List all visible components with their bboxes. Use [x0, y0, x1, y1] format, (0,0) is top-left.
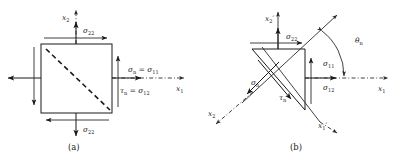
x1-prime-axis-label-b: x1′ [318, 122, 327, 132]
sigma12-label-b: σ12 [323, 84, 335, 94]
x2-axis-label-b: x2 [208, 110, 215, 120]
sigma-n-equation-label-a: σn = σ11 [128, 66, 159, 76]
diagonal-cut-plane [46, 49, 110, 110]
theta-n-label: θn [355, 37, 363, 47]
figure-vector-layer [0, 0, 396, 161]
panel-b-caption: (b) [290, 142, 302, 152]
sigma22-top-label-a: σ22 [83, 27, 95, 37]
x2-axis-label-a: x2 [62, 14, 69, 24]
x2-prime-axis-label-b: x2′ [265, 15, 274, 25]
stress-transformation-figure: x2 σ22 σ22 σn = σ11 τn = σ12 x1 (a) x2′ … [0, 0, 396, 161]
x1-axis-label-b: x1 [378, 85, 385, 95]
tau-n-equation-label-a: τn = σ12 [120, 87, 150, 97]
tau-n-label-b: τn [279, 94, 286, 104]
x2-axis-line-b [216, 92, 253, 124]
sigma22-bottom-label-a: σ22 [83, 126, 95, 136]
sigma-n-label-b: σn [251, 79, 259, 89]
panel-b-graphics [216, 12, 388, 133]
x1-axis-label-a: x1 [176, 85, 183, 95]
sigma22-label-b: σ22 [286, 33, 298, 43]
panel-a-caption: (a) [68, 142, 80, 152]
sigma11-label-b: σ11 [323, 60, 335, 70]
